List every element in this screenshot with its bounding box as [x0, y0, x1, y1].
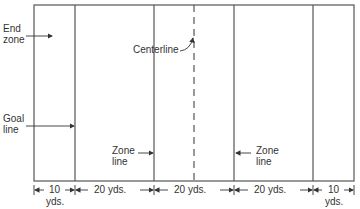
zone-line-right-label-line1: Zone: [256, 145, 279, 156]
dim-zone-1: 20 yds.: [93, 184, 127, 195]
zone-line-left-label: Zone line: [112, 145, 135, 167]
zone-line-right-label: Zone line: [256, 145, 279, 167]
goal-line-label: Goal line: [3, 113, 24, 135]
goal-line-label-line1: Goal: [3, 113, 24, 124]
field-diagram: [0, 0, 360, 209]
zone-line-right-label-line2: line: [256, 156, 279, 167]
dim-zone-2: 20 yds.: [173, 184, 207, 195]
centerline-label: Centerline: [133, 44, 179, 55]
goal-line-label-line2: line: [3, 124, 24, 135]
end-zone-label: End zone: [3, 23, 25, 45]
zone-line-left-label-line1: Zone: [112, 145, 135, 156]
dim-end-zone-right-unit: yds.: [324, 196, 344, 207]
end-zone-label-line2: zone: [3, 34, 25, 45]
dim-end-zone-right: 10: [327, 184, 340, 195]
dim-end-zone-left-unit: yds.: [45, 196, 65, 207]
dim-zone-3: 20 yds.: [253, 184, 287, 195]
centerline-arrow: [180, 38, 193, 51]
zone-line-left-label-line2: line: [112, 156, 135, 167]
dim-end-zone-left: 10: [48, 184, 61, 195]
end-zone-label-line1: End: [3, 23, 25, 34]
